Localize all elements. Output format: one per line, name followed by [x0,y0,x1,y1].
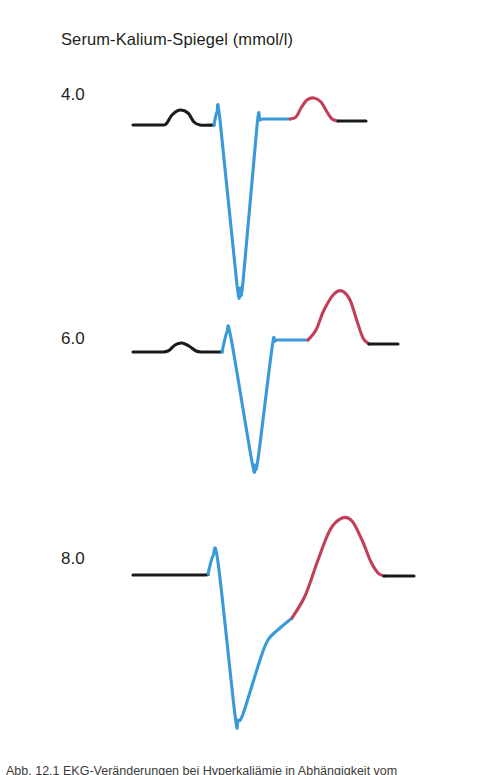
ecg-trace-row-8.0 [133,517,414,728]
ecg-segment-qrs-complex-row-6.0 [222,326,308,473]
ecg-segment-qrs-complex-row-8.0 [208,548,292,728]
ecg-segment-t-wave-row-6.0 [308,291,369,344]
ecg-segment-baseline-and-p-wave-row-4.0 [133,110,214,125]
ecg-figure: Serum-Kalium-Spiegel (mmol/l) 4.0 6.0 8.… [0,0,480,775]
ecg-segment-baseline-and-p-wave-row-6.0 [133,343,222,352]
ecg-segment-qrs-complex-row-4.0 [214,104,290,298]
ecg-segment-baseline-row-8.0 [133,574,208,575]
ecg-trace-row-6.0 [133,291,398,473]
ecg-trace-row-4.0 [133,98,366,298]
ecg-segment-t-wave-row-4.0 [290,98,338,121]
ecg-traces [0,0,480,775]
figure-caption: Abb. 12.1 EKG-Veränderungen bei Hyperkal… [6,764,476,775]
ecg-segment-t-wave-row-8.0 [292,517,384,618]
